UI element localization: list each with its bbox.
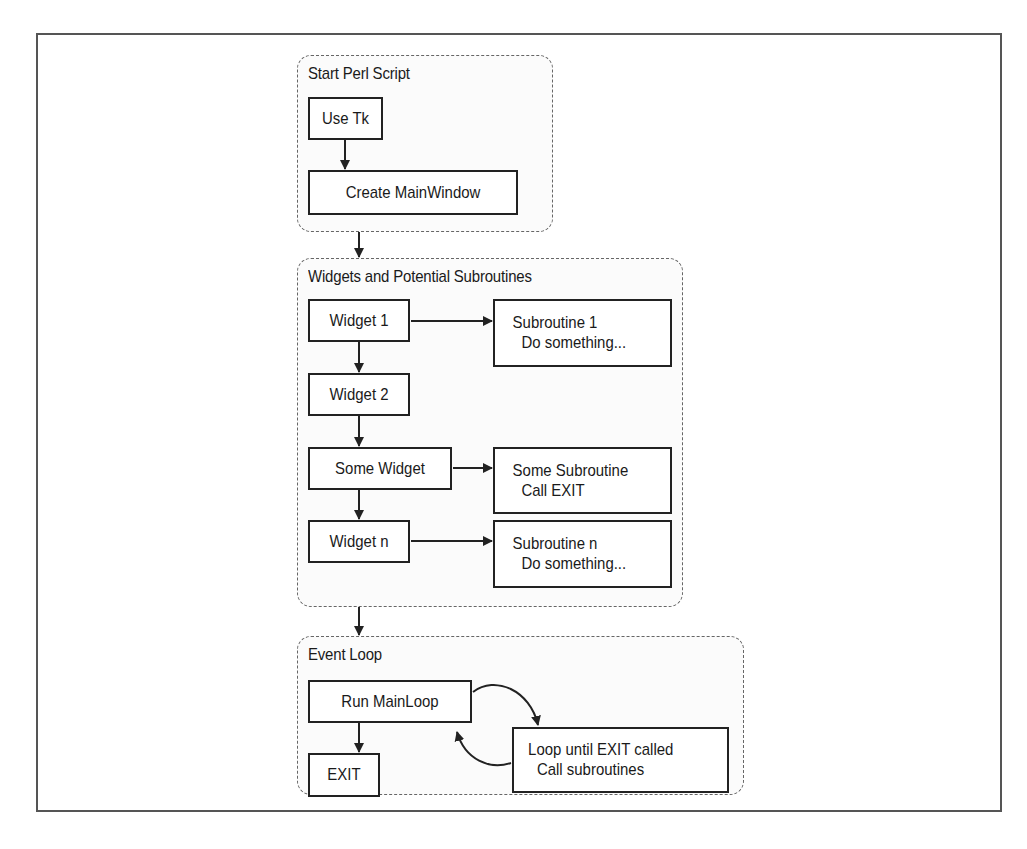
node-label: Widget 1 [316, 311, 402, 331]
group-title: Event Loop [308, 645, 382, 665]
loop-title: Loop until EXIT called [514, 740, 701, 760]
node-some-widget: Some Widget [308, 447, 452, 490]
node-subroutine-n: Subroutine n Do something... [493, 520, 672, 588]
node-label: Some Widget [318, 459, 441, 479]
node-label: Create MainWindow [322, 183, 503, 203]
node-use-tk: Use Tk [308, 97, 383, 140]
loop-detail: Call subroutines [514, 760, 701, 780]
node-widget-1: Widget 1 [308, 299, 410, 342]
group-title: Start Perl Script [308, 64, 410, 84]
node-run-mainloop: Run MainLoop [308, 680, 472, 723]
node-label: Use Tk [314, 109, 376, 129]
node-some-subroutine: Some Subroutine Call EXIT [493, 447, 672, 514]
subroutine-title: Subroutine 1 [495, 313, 649, 333]
subroutine-title: Some Subroutine [495, 461, 649, 481]
node-label: Run MainLoop [320, 692, 461, 712]
node-label: Widget n [316, 532, 402, 552]
subroutine-detail: Call EXIT [495, 481, 649, 501]
subroutine-title: Subroutine n [495, 534, 649, 554]
node-subroutine-1: Subroutine 1 Do something... [493, 299, 672, 367]
node-widget-n: Widget n [308, 520, 410, 563]
node-label: Widget 2 [316, 385, 402, 405]
node-loop-until-exit: Loop until EXIT called Call subroutines [512, 727, 729, 793]
node-label: EXIT [314, 765, 374, 785]
node-widget-2: Widget 2 [308, 373, 410, 416]
subroutine-detail: Do something... [495, 333, 649, 353]
node-create-mainwindow: Create MainWindow [308, 170, 518, 215]
node-exit: EXIT [308, 753, 380, 797]
group-title: Widgets and Potential Subroutines [308, 267, 532, 287]
subroutine-detail: Do something... [495, 554, 649, 574]
